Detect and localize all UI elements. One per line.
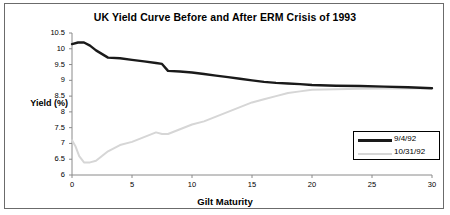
legend-item-0: 9/4/92 (354, 133, 441, 146)
legend-label: 10/31/92 (394, 147, 425, 156)
legend-line-swatch (358, 139, 392, 142)
chart-legend: 9/4/92 10/31/92 (353, 131, 440, 160)
legend-label: 9/4/92 (394, 134, 416, 143)
legend-line-swatch (358, 153, 392, 155)
chart-screenshot: UK Yield Curve Before and After ERM Cris… (0, 0, 450, 215)
legend-item-1: 10/31/92 (354, 146, 441, 159)
plot-area (0, 0, 450, 215)
